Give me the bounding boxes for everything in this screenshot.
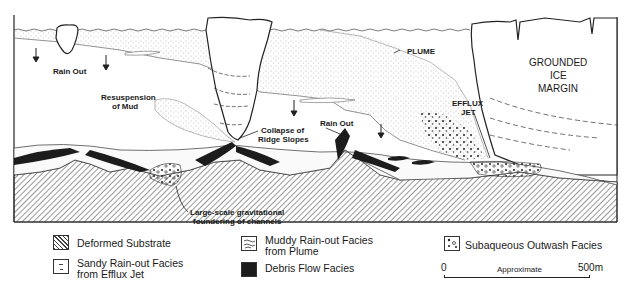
- label-foundering-2: foundering of channels: [193, 217, 282, 226]
- label-rain-out-mid: Rain Out: [320, 119, 354, 128]
- subaqueous-outwash: [470, 161, 541, 176]
- label-resuspension: Resuspension: [101, 93, 156, 102]
- legend-label-deformed-substrate: Deformed Substrate: [77, 238, 171, 249]
- label-grounded: GROUNDED: [529, 57, 587, 68]
- label-jet: JET: [461, 108, 476, 117]
- label-of-mud: of Mud: [112, 102, 138, 111]
- label-foundering-1: Large-scale gravitational: [190, 208, 284, 217]
- legend-label-subaqueous-outwash: Subaqueous Outwash Facies: [465, 240, 602, 251]
- iceberg-small: [56, 25, 78, 54]
- scale-start-label: 0: [441, 262, 447, 273]
- scale-end-label: 500m: [578, 262, 603, 273]
- label-plume: PLUME: [407, 47, 436, 56]
- legend-label-sandy-rain-out: Sandy Rain-out Facies from Efflux Jet: [77, 258, 183, 280]
- legend-label-debris-flow: Debris Flow Facies: [265, 263, 354, 274]
- label-collapse: Collapse of: [261, 126, 304, 135]
- label-ice: ICE: [550, 70, 567, 81]
- legend-swatch-sandy-rain-out: [53, 259, 69, 274]
- label-ridge-slopes: Ridge Slopes: [258, 135, 309, 144]
- label-efflux: EFFLUX: [452, 99, 484, 108]
- grounded-ice-margin: [471, 18, 617, 175]
- legend-swatch-subaqueous-outwash: [444, 236, 460, 251]
- scale-line: [444, 275, 590, 278]
- legend-label-muddy-rain-out: Muddy Rain-out Facies from Plume: [265, 235, 373, 257]
- label-rain-out-left: Rain Out: [53, 67, 87, 76]
- label-margin: MARGIN: [538, 83, 578, 94]
- legend-swatch-deformed-substrate: [53, 235, 69, 250]
- legend-swatch-debris-flow: [241, 262, 257, 277]
- legend-swatch-muddy-rain-out: [241, 236, 257, 251]
- scale-caption: Approximate: [497, 265, 542, 274]
